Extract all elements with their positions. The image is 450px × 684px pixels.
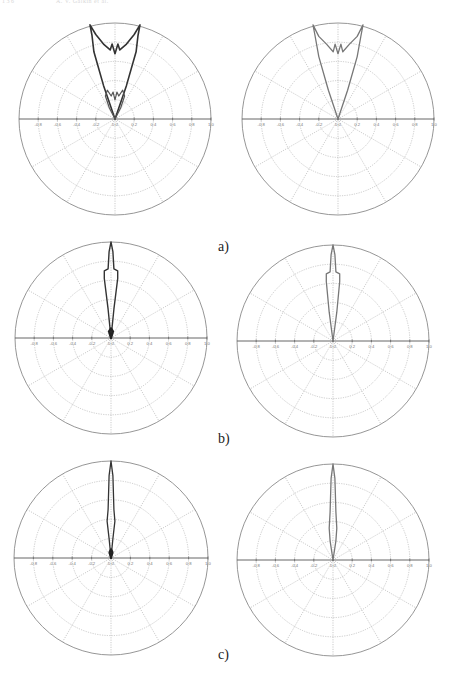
x-tick-label: 0.8 bbox=[407, 563, 413, 568]
x-tick-label: 0.0 bbox=[330, 563, 336, 568]
x-tick-label: 0.0 bbox=[112, 122, 118, 127]
polar-plot-a-left: -0.8-0.6-0.4-0.20.00.20.40.60.81.0 bbox=[19, 23, 215, 215]
x-tick-label: 0.6 bbox=[166, 341, 172, 346]
x-tick-label: -0.8 bbox=[35, 122, 43, 127]
pattern-curve-base bbox=[110, 549, 113, 558]
x-tick-label: -0.6 bbox=[49, 561, 57, 566]
x-tick-label: -0.4 bbox=[296, 122, 304, 127]
polar-spoke bbox=[111, 255, 159, 338]
x-tick-label: -0.4 bbox=[73, 122, 81, 127]
x-tick-label: 0.0 bbox=[335, 122, 341, 127]
panel-label-b: b) bbox=[218, 431, 230, 447]
x-tick-label: -0.2 bbox=[310, 344, 318, 349]
x-tick-label: 0.8 bbox=[407, 344, 413, 349]
polar-spoke bbox=[285, 341, 333, 424]
x-tick-label: 0.2 bbox=[127, 341, 133, 346]
x-tick-label: 1.0 bbox=[205, 561, 211, 566]
polar-spoke bbox=[32, 71, 115, 119]
x-tick-label: -0.8 bbox=[253, 563, 261, 568]
polar-plot-c-right: -0.8-0.6-0.4-0.20.00.20.40.60.81.0 bbox=[237, 464, 433, 656]
x-tick-label: 0.8 bbox=[185, 341, 191, 346]
polar-spoke bbox=[250, 512, 333, 560]
x-tick-label: 0.4 bbox=[147, 561, 153, 566]
x-tick-label: 0.0 bbox=[330, 344, 336, 349]
x-tick-label: 0.6 bbox=[170, 122, 176, 127]
polar-spoke bbox=[111, 338, 194, 386]
polar-spoke bbox=[111, 474, 160, 558]
x-tick-label: -0.2 bbox=[88, 561, 96, 566]
polar-spoke bbox=[111, 558, 195, 607]
polar-plot-a-right: -0.8-0.6-0.4-0.20.00.20.40.60.81.0 bbox=[242, 23, 438, 215]
polar-spoke bbox=[111, 510, 195, 559]
x-tick-label: 0.6 bbox=[388, 344, 394, 349]
x-tick-label: 0.8 bbox=[189, 122, 195, 127]
x-tick-label: -0.8 bbox=[253, 344, 261, 349]
x-tick-label: 0.4 bbox=[146, 341, 152, 346]
polar-spoke bbox=[28, 290, 111, 338]
x-tick-label: 0.0 bbox=[108, 341, 114, 346]
x-tick-label: -0.6 bbox=[272, 344, 280, 349]
x-tick-label: 0.2 bbox=[349, 563, 355, 568]
x-tick-label: -0.2 bbox=[88, 341, 96, 346]
x-tick-label: -0.6 bbox=[50, 341, 58, 346]
polar-figure: -0.8-0.6-0.4-0.20.00.20.40.60.81.0-0.8-0… bbox=[0, 0, 450, 684]
polar-spoke bbox=[63, 338, 111, 421]
panel-label-a: a) bbox=[218, 239, 229, 255]
x-tick-label: -0.4 bbox=[291, 344, 299, 349]
polar-spoke bbox=[111, 338, 159, 421]
x-tick-label: -0.8 bbox=[31, 341, 39, 346]
polar-spoke bbox=[333, 341, 416, 389]
x-tick-label: 1.0 bbox=[431, 122, 437, 127]
x-tick-label: -0.6 bbox=[272, 563, 280, 568]
polar-spoke bbox=[333, 477, 381, 560]
x-tick-label: -0.4 bbox=[291, 563, 299, 568]
polar-spoke bbox=[333, 512, 416, 560]
polar-spoke bbox=[115, 119, 163, 202]
x-tick-label: 0.2 bbox=[131, 122, 137, 127]
x-tick-label: 0.0 bbox=[108, 561, 114, 566]
polar-spoke bbox=[290, 119, 338, 202]
x-tick-label: 0.2 bbox=[354, 122, 360, 127]
polar-spoke bbox=[63, 474, 112, 558]
x-tick-label: 0.8 bbox=[186, 561, 192, 566]
polar-spoke bbox=[338, 119, 421, 167]
x-tick-label: -0.6 bbox=[277, 122, 285, 127]
polar-spoke bbox=[285, 258, 333, 341]
panel-label-c: c) bbox=[218, 647, 229, 663]
x-tick-label: 1.0 bbox=[426, 344, 432, 349]
x-tick-label: -0.6 bbox=[54, 122, 62, 127]
x-tick-label: 0.4 bbox=[150, 122, 156, 127]
polar-spoke bbox=[333, 293, 416, 341]
polar-spoke bbox=[333, 560, 416, 608]
x-tick-label: 0.6 bbox=[388, 563, 394, 568]
x-tick-label: 0.4 bbox=[368, 344, 374, 349]
x-tick-label: 1.0 bbox=[204, 341, 210, 346]
polar-spoke bbox=[285, 477, 333, 560]
polar-spoke bbox=[333, 258, 381, 341]
x-tick-label: 1.0 bbox=[208, 122, 214, 127]
x-tick-label: -0.8 bbox=[258, 122, 266, 127]
polar-plot-c-left: -0.8-0.6-0.4-0.20.00.20.40.60.81.0 bbox=[14, 461, 212, 655]
polar-spoke bbox=[63, 255, 111, 338]
polar-spoke bbox=[115, 119, 198, 167]
x-tick-label: -0.2 bbox=[315, 122, 323, 127]
polar-spoke bbox=[111, 558, 160, 642]
x-tick-label: -0.4 bbox=[69, 561, 77, 566]
x-tick-label: 0.6 bbox=[393, 122, 399, 127]
x-tick-label: 1.0 bbox=[426, 563, 432, 568]
polar-plot-b-left: -0.8-0.6-0.4-0.20.00.20.40.60.81.0 bbox=[15, 242, 211, 434]
x-tick-label: -0.8 bbox=[30, 561, 38, 566]
polar-spoke bbox=[333, 341, 381, 424]
x-tick-label: -0.4 bbox=[69, 341, 77, 346]
x-tick-label: 0.8 bbox=[412, 122, 418, 127]
polar-spoke bbox=[285, 560, 333, 643]
polar-spoke bbox=[333, 560, 381, 643]
polar-spoke bbox=[63, 558, 112, 642]
polar-spoke bbox=[67, 119, 115, 202]
polar-spoke bbox=[115, 71, 198, 119]
x-tick-label: 0.4 bbox=[373, 122, 379, 127]
x-tick-label: 0.6 bbox=[166, 561, 172, 566]
x-tick-label: -0.2 bbox=[310, 563, 318, 568]
polar-spoke bbox=[338, 119, 386, 202]
polar-spoke bbox=[250, 293, 333, 341]
